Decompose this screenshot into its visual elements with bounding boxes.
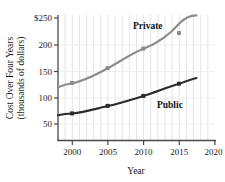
x-tick-label-2020: 2020 — [205, 147, 224, 157]
y-axis-title-line2: (thousands of dollars) — [16, 37, 27, 120]
series-label-public: Public — [157, 100, 183, 110]
y-tick-label-50: 50 — [43, 119, 53, 129]
x-tick-label-2015: 2015 — [170, 147, 189, 157]
x-tick-label-2005: 2005 — [99, 147, 118, 157]
y-tick-label-250: $250 — [34, 13, 53, 23]
series-label-private: Private — [133, 21, 163, 31]
cost-over-four-years-chart: $250 200 150 100 50 2000 2005 2010 2015 … — [0, 0, 225, 182]
y-tick-label-150: 150 — [39, 67, 53, 77]
vertical-gridlines — [65, 15, 208, 140]
y-tick-label-100: 100 — [39, 93, 53, 103]
y-axis-title-line1: Cost Over Four Years — [5, 37, 15, 120]
x-axis-title: Year — [127, 166, 145, 176]
x-tick-label-2000: 2000 — [63, 147, 82, 157]
y-tick-label-200: 200 — [39, 40, 53, 50]
x-tick-label-2010: 2010 — [135, 147, 154, 157]
